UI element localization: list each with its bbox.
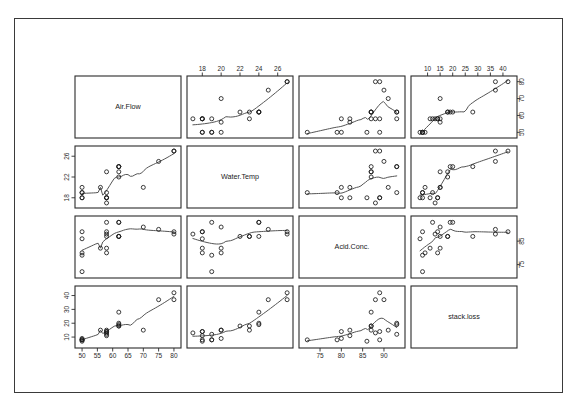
diagonal-panel-air-flow: Air.Flow bbox=[75, 76, 181, 138]
axis-tick-label: 25 bbox=[462, 65, 470, 72]
axis-tick-label: 75 bbox=[518, 261, 525, 269]
axis-tick-label: 18 bbox=[63, 194, 70, 202]
axis-tick-label: 65 bbox=[124, 352, 132, 359]
axis-tick-label: 75 bbox=[155, 352, 163, 359]
variable-name-label: Water.Temp bbox=[221, 172, 259, 181]
variable-name-label: stack.loss bbox=[448, 312, 480, 321]
scatter-panel-water-temp-vs-stack-loss bbox=[411, 146, 517, 208]
axis-tick-label: 26 bbox=[63, 152, 70, 160]
axis-tick-label: 40 bbox=[63, 292, 70, 300]
scatter-panel-water-temp-vs-acid-conc- bbox=[299, 146, 405, 208]
axis-tick-label: 55 bbox=[94, 352, 102, 359]
axis-tick-label: 20 bbox=[218, 65, 226, 72]
axis-tick-label: 80 bbox=[338, 352, 346, 359]
axis-tick-label: 80 bbox=[518, 78, 525, 86]
scatter-panel-acid-conc--vs-air-flow bbox=[75, 216, 181, 278]
axis-tick-label: 10 bbox=[424, 65, 432, 72]
scatterplot-matrix: Air.FlowWater.TempAcid.Conc.stack.loss18… bbox=[0, 0, 581, 411]
axis-tick-label: 20 bbox=[449, 65, 457, 72]
axis-tick-label: 50 bbox=[78, 352, 86, 359]
axis-tick-label: 30 bbox=[474, 65, 482, 72]
axis-tick-label: 60 bbox=[109, 352, 117, 359]
axis-tick-label: 85 bbox=[359, 352, 367, 359]
scatter-panel-air-flow-vs-water-temp bbox=[187, 76, 293, 138]
axis-tick-label: 18 bbox=[199, 65, 207, 72]
axis-tick-label: 70 bbox=[518, 95, 525, 103]
axis-tick-label: 22 bbox=[63, 173, 70, 181]
axis-tick-label: 26 bbox=[274, 65, 282, 72]
variable-name-label: Acid.Conc. bbox=[335, 242, 370, 251]
pairs-plot-svg: Air.FlowWater.TempAcid.Conc.stack.loss18… bbox=[0, 0, 581, 411]
axis-tick-label: 40 bbox=[499, 65, 507, 72]
diagonal-panel-water-temp: Water.Temp bbox=[187, 146, 293, 208]
diagonal-panel-stack-loss: stack.loss bbox=[411, 286, 517, 348]
scatter-panel-acid-conc--vs-stack-loss bbox=[411, 216, 517, 278]
axis-tick-label: 50 bbox=[518, 128, 525, 136]
axis-tick-label: 90 bbox=[380, 352, 388, 359]
axis-tick-label: 30 bbox=[63, 305, 70, 313]
axis-tick-label: 80 bbox=[170, 352, 178, 359]
axis-tick-label: 10 bbox=[63, 333, 70, 341]
axis-tick-label: 24 bbox=[255, 65, 263, 72]
axis-tick-label: 15 bbox=[437, 65, 445, 72]
variable-name-label: Air.Flow bbox=[115, 102, 141, 111]
axis-tick-label: 60 bbox=[518, 111, 525, 119]
axis-tick-label: 20 bbox=[63, 319, 70, 327]
scatter-panel-air-flow-vs-acid-conc- bbox=[299, 76, 405, 138]
axis-tick-label: 75 bbox=[316, 352, 324, 359]
axis-tick-label: 22 bbox=[236, 65, 244, 72]
diagonal-panel-acid-conc-: Acid.Conc. bbox=[299, 216, 405, 278]
scatter-panel-stack-loss-vs-acid-conc- bbox=[299, 286, 405, 348]
axis-tick-label: 35 bbox=[487, 65, 495, 72]
scatter-panel-stack-loss-vs-water-temp bbox=[187, 286, 293, 348]
axis-tick-label: 85 bbox=[518, 237, 525, 245]
scatter-panel-air-flow-vs-stack-loss bbox=[411, 76, 517, 138]
scatter-panel-stack-loss-vs-air-flow bbox=[75, 286, 181, 348]
scatter-panel-acid-conc--vs-water-temp bbox=[187, 216, 293, 278]
scatter-panel-water-temp-vs-air-flow bbox=[75, 146, 181, 208]
axis-tick-label: 70 bbox=[140, 352, 148, 359]
